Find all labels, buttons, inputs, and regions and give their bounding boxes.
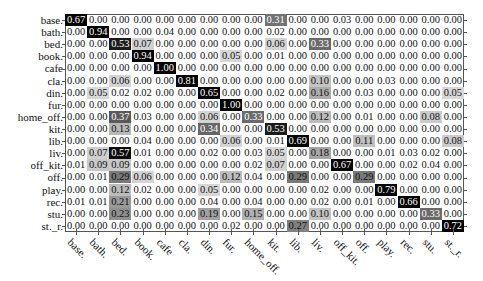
matrix-cell: 0.67: [65, 14, 87, 26]
column-label: fur.: [221, 236, 240, 255]
matrix-cell: 0.00: [309, 159, 331, 171]
column-label: play.: [376, 236, 399, 259]
matrix-cell: 0.00: [65, 171, 87, 183]
matrix-cell: 0.00: [398, 62, 420, 74]
matrix-cell: 0.03: [331, 14, 353, 26]
matrix-cell: 0.00: [220, 87, 242, 99]
x-tick: [364, 229, 365, 235]
matrix-cell: 0.00: [375, 171, 397, 183]
column-label: cla.: [176, 236, 196, 256]
matrix-cell: 0.12: [309, 111, 331, 123]
matrix-cell: 0.00: [442, 14, 464, 26]
row-label: off.: [48, 171, 63, 183]
matrix-cell: 0.00: [287, 87, 309, 99]
matrix-cell: 0.00: [375, 135, 397, 147]
matrix-cell: 0.94: [132, 50, 154, 62]
y-tick: [464, 56, 467, 57]
matrix-cell: 0.00: [420, 171, 442, 183]
matrix-cell: 0.00: [154, 171, 176, 183]
row-label: kit.: [49, 123, 63, 135]
matrix-cell: 0.00: [398, 135, 420, 147]
row-label: cafe: [45, 62, 63, 74]
y-tick: [464, 93, 467, 94]
matrix-cell: 0.00: [109, 62, 131, 74]
matrix-cell: 0.01: [87, 171, 109, 183]
matrix-cell: 0.00: [420, 50, 442, 62]
matrix-cell: 0.00: [109, 26, 131, 38]
matrix-cell: 0.00: [375, 14, 397, 26]
matrix-cell: 0.00: [287, 99, 309, 111]
x-tick: [231, 229, 232, 235]
matrix-cell: 0.15: [242, 208, 264, 220]
matrix-cell: 0.00: [220, 184, 242, 196]
matrix-cell: 0.00: [375, 62, 397, 74]
matrix-cell: 0.05: [442, 87, 464, 99]
matrix-cell: 0.00: [442, 159, 464, 171]
matrix-cell: 0.00: [353, 123, 375, 135]
matrix-cell: 0.00: [198, 38, 220, 50]
matrix-cell: 0.00: [442, 184, 464, 196]
column-label: kit.: [265, 236, 284, 255]
matrix-cell: 0.00: [420, 26, 442, 38]
matrix-cell: 0.00: [331, 50, 353, 62]
column-label: book.: [132, 236, 158, 262]
y-tick: [464, 69, 467, 70]
matrix-cell: 0.00: [398, 123, 420, 135]
matrix-cell: 0.23: [109, 208, 131, 220]
matrix-cell: 0.00: [331, 38, 353, 50]
matrix-cell: 0.02: [198, 147, 220, 159]
matrix-cell: 0.00: [420, 38, 442, 50]
matrix-cell: 0.03: [132, 111, 154, 123]
column-label: stu.: [420, 236, 440, 256]
matrix-cell: 0.00: [265, 208, 287, 220]
matrix-cell: 0.00: [154, 87, 176, 99]
matrix-cell: 0.00: [87, 208, 109, 220]
matrix-cell: 0.00: [176, 99, 198, 111]
matrix-cell: 0.66: [398, 196, 420, 208]
column-label: din.: [199, 236, 219, 256]
matrix-cell: 0.00: [220, 111, 242, 123]
matrix-cell: 0.08: [442, 135, 464, 147]
matrix-cell: 0.00: [132, 99, 154, 111]
matrix-cell: 0.00: [198, 75, 220, 87]
row-label: din.: [46, 87, 63, 99]
matrix-cell: 0.00: [420, 196, 442, 208]
matrix-cell: 0.00: [375, 38, 397, 50]
matrix-cell: 0.00: [398, 75, 420, 87]
matrix-cell: 0.00: [331, 87, 353, 99]
matrix-cell: 0.00: [176, 111, 198, 123]
matrix-cell: 0.02: [265, 87, 287, 99]
y-tick: [464, 129, 467, 130]
row-label: fur.: [48, 99, 63, 111]
matrix-cell: 0.01: [353, 111, 375, 123]
matrix-cell: 0.12: [220, 171, 242, 183]
y-tick: [464, 32, 467, 33]
matrix-cell: 0.00: [65, 147, 87, 159]
matrix-cell: 0.00: [65, 123, 87, 135]
matrix-cell: 0.00: [132, 196, 154, 208]
matrix-cell: 0.04: [198, 196, 220, 208]
row-label: play.: [42, 184, 63, 196]
x-tick: [165, 229, 166, 235]
y-tick: [464, 153, 467, 154]
matrix-cell: 0.00: [220, 62, 242, 74]
row-label: lib.: [49, 135, 63, 147]
matrix-cell: 0.00: [265, 184, 287, 196]
x-tick: [431, 229, 432, 235]
matrix-cell: 0.37: [109, 111, 131, 123]
matrix-cell: 0.00: [375, 99, 397, 111]
matrix-cell: 0.00: [287, 123, 309, 135]
matrix-cell: 0.29: [109, 171, 131, 183]
matrix-cell: 0.53: [109, 38, 131, 50]
y-tick: [464, 20, 467, 21]
matrix-cell: 0.00: [87, 50, 109, 62]
y-tick: [464, 81, 467, 82]
matrix-cell: 0.05: [220, 50, 242, 62]
matrix-cell: 0.00: [65, 26, 87, 38]
matrix-cell: 0.00: [198, 14, 220, 26]
matrix-cell: 0.00: [198, 135, 220, 147]
matrix-cell: 0.00: [176, 159, 198, 171]
y-tick: [464, 141, 467, 142]
matrix-cell: 0.00: [109, 50, 131, 62]
matrix-cell: 0.00: [420, 184, 442, 196]
